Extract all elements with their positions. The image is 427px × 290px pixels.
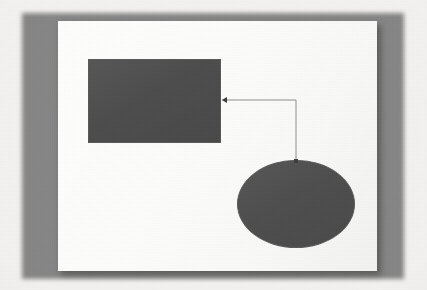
connector-line[interactable] [222,100,296,161]
diagram-canvas[interactable] [58,21,377,271]
connector-endpoint-marker-icon [294,159,298,163]
diagram-page [58,21,377,271]
connector-arrowhead-icon [222,97,227,103]
connector-layer [58,21,377,271]
screenshot-stage [0,0,427,290]
